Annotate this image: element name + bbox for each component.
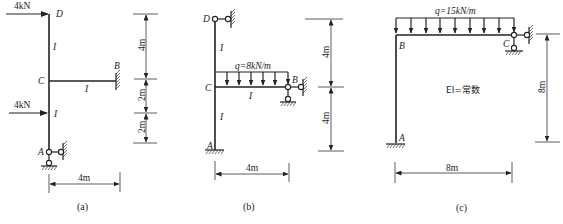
node-label-b: B — [114, 61, 120, 71]
node-label-d: D — [55, 9, 63, 19]
horizontal-dimension: 8m — [395, 162, 512, 183]
figure-b: q=8kN/m D C B A I I I 4m 4m 4m (b) — [202, 9, 344, 213]
dim-label-4m: 4m — [321, 111, 331, 124]
vertical-dimension: 8m — [535, 34, 560, 142]
vertical-dimension: 4m 4m — [305, 19, 344, 151]
member-stiffness-label: I — [219, 43, 224, 53]
horizontal-dimension: 4m — [49, 172, 120, 193]
member-stiffness-label: I — [53, 109, 58, 119]
node-label-c: C — [38, 76, 45, 86]
distributed-load-icon — [215, 72, 288, 85]
figure-caption: (b) — [243, 201, 255, 213]
horizontal-dimension: 4m — [215, 161, 289, 182]
node-label-c: C — [205, 83, 212, 93]
load-label-top: 4kN — [14, 1, 31, 11]
node-label-b: B — [399, 41, 405, 51]
pin-support-icon — [41, 141, 67, 170]
distributed-load-icon — [396, 18, 514, 33]
figure-caption: (a) — [77, 201, 88, 213]
member-stiffness-label: I — [52, 42, 57, 52]
node-label-a: A — [37, 147, 44, 157]
member-stiffness-label: I — [84, 84, 89, 94]
dim-label-2m: 2m — [137, 120, 147, 133]
figure-a: 4kN 4kN D C B A I I I 4m 2m 2m 4m — [6, 1, 158, 213]
dim-label-4m: 4m — [137, 38, 147, 51]
member-stiffness-label: I — [248, 91, 253, 101]
dim-label-4m: 4m — [246, 163, 259, 173]
distributed-load-label: q=8kN/m — [235, 61, 271, 71]
node-label-a: A — [398, 133, 405, 143]
member-stiffness-label: I — [219, 112, 224, 122]
dim-label-8m: 8m — [446, 163, 459, 173]
fixed-support-icon — [386, 144, 405, 148]
node-label-a: A — [206, 141, 213, 151]
node-label-c: C — [503, 39, 510, 49]
dim-label-2m: 2m — [137, 88, 147, 101]
dim-label-4m: 4m — [321, 45, 331, 58]
load-label-mid: 4kN — [14, 100, 31, 110]
vertical-dimension: 4m 2m 2m — [133, 14, 158, 143]
dim-label-4m: 4m — [78, 173, 91, 183]
node-label-b: B — [292, 75, 298, 85]
distributed-load-label: q=15kN/m — [435, 6, 476, 16]
fixed-support-icon — [116, 70, 120, 90]
figure-c: q=15kN/m — [386, 6, 560, 214]
figure-caption: (c) — [456, 202, 467, 214]
stiffness-note: EI=常数 — [446, 84, 480, 95]
structural-frames-diagram: 4kN 4kN D C B A I I I 4m 2m 2m 4m — [0, 0, 563, 224]
node-label-d: D — [202, 14, 210, 24]
dim-label-8m: 8m — [537, 80, 547, 93]
